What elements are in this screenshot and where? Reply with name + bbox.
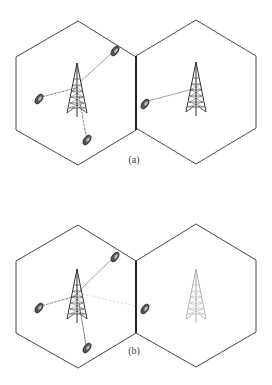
link-a1: [80, 52, 113, 82]
tower-icon-inactive: [186, 269, 206, 323]
phone-icon: [33, 93, 44, 105]
phone-icon: [109, 251, 120, 263]
figure-a: [16, 20, 256, 165]
tower-icon: [186, 62, 206, 116]
phone-icon: [81, 342, 92, 354]
phone-icon: [109, 45, 120, 57]
caption-a: (a): [119, 154, 149, 165]
tower-icon: [67, 63, 87, 117]
phone-icon: [139, 303, 150, 315]
link-b1: [80, 258, 113, 290]
link-a4: [148, 89, 193, 101]
phone-icon: [33, 302, 44, 314]
phone-icon: [139, 98, 150, 110]
link-b4-handover: [82, 294, 140, 307]
caption-b: (b): [119, 345, 149, 356]
cell-left-b: [16, 225, 136, 368]
tower-icon: [67, 269, 87, 323]
phone-icon: [81, 134, 92, 146]
